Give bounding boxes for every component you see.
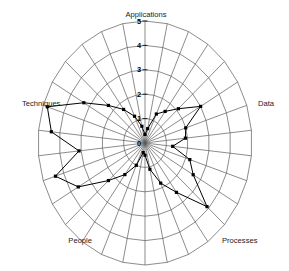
data-marker-6 [184, 126, 187, 129]
axis-label-processes: Processes [222, 236, 258, 245]
grid-spoke-19 [65, 143, 145, 225]
grid-spoke-17 [101, 143, 145, 254]
axis-label-people: People [68, 236, 92, 245]
data-marker-21 [54, 175, 57, 178]
grid-spoke-24 [43, 105, 145, 143]
data-marker-9 [188, 158, 191, 161]
data-marker-10 [192, 173, 195, 176]
data-marker-19 [107, 179, 110, 182]
data-marker-0 [143, 133, 146, 136]
axis-label-applications: Applications [126, 10, 167, 19]
tick-label-4: 4 [137, 41, 142, 50]
grid-spoke-13 [145, 143, 189, 254]
axis-label-techniques: Techniques [22, 99, 61, 108]
grid-spoke-6 [145, 105, 247, 143]
data-marker-16 [142, 151, 145, 154]
data-marker-8 [171, 145, 174, 148]
grid-spoke-21 [43, 143, 145, 181]
data-marker-12 [175, 191, 178, 194]
data-marker-2 [155, 112, 158, 115]
data-marker-20 [77, 185, 80, 188]
radar-chart: 012345 ApplicationsDataProcessesPeopleTe… [0, 0, 289, 271]
grid-spoke-2 [145, 32, 189, 143]
data-marker-3 [164, 110, 167, 113]
tick-label-1: 1 [137, 114, 141, 123]
tick-label-3: 3 [137, 65, 141, 74]
data-marker-22 [77, 149, 80, 152]
axis-label-data: Data [258, 99, 275, 108]
data-marker-28 [133, 115, 136, 118]
data-marker-14 [148, 168, 151, 171]
data-marker-25 [82, 101, 85, 104]
data-marker-18 [123, 173, 126, 176]
data-marker-5 [199, 105, 202, 108]
data-marker-26 [107, 104, 110, 107]
data-marker-13 [159, 182, 162, 185]
data-marker-17 [135, 164, 138, 167]
grid-spoke-26 [65, 61, 145, 143]
data-marker-11 [205, 205, 208, 208]
data-marker-1 [146, 127, 149, 130]
grid-spokes [39, 21, 252, 265]
data-marker-29 [140, 125, 143, 128]
data-marker-7 [184, 137, 187, 140]
tick-label-0: 0 [137, 139, 141, 148]
radar-chart-svg: 012345 ApplicationsDataProcessesPeopleTe… [0, 0, 289, 271]
data-marker-23 [50, 130, 53, 133]
tick-label-2: 2 [137, 90, 141, 99]
grid-spoke-4 [145, 61, 225, 143]
grid-spoke-9 [145, 143, 247, 181]
data-marker-4 [177, 107, 180, 110]
data-marker-27 [122, 108, 125, 111]
